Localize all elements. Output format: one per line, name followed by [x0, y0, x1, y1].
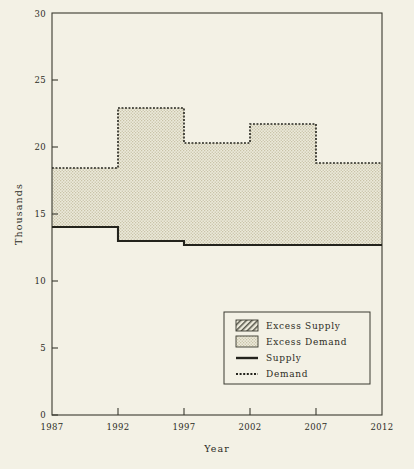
- legend-swatch-excess-demand: [236, 336, 258, 347]
- x-tick-label-1997: 1997: [172, 422, 195, 432]
- x-tick-label-1992: 1992: [106, 422, 129, 432]
- legend-label-excess-demand: Excess Demand: [266, 337, 347, 347]
- y-tick-label-30: 30: [34, 9, 46, 19]
- chart-container: 0 5 10 15 20 25 30 1987 1992 1997 2002 2…: [0, 0, 414, 469]
- y-tick-label-25: 25: [34, 75, 46, 85]
- chart-legend: Excess Supply Excess Demand Supply Deman…: [224, 312, 370, 384]
- step-area-chart: 0 5 10 15 20 25 30 1987 1992 1997 2002 2…: [0, 0, 414, 469]
- x-tick-label-1987: 1987: [40, 422, 63, 432]
- x-axis-title: Year: [203, 443, 230, 454]
- x-tick-label-2007: 2007: [304, 422, 327, 432]
- legend-label-supply: Supply: [266, 353, 302, 363]
- legend-label-demand: Demand: [266, 369, 308, 379]
- legend-swatch-excess-supply: [236, 320, 258, 331]
- x-tick-label-2002: 2002: [238, 422, 261, 432]
- y-tick-label-20: 20: [34, 142, 46, 152]
- x-tick-label-2012: 2012: [370, 422, 393, 432]
- y-tick-label-0: 0: [40, 410, 46, 420]
- y-tick-label-5: 5: [40, 343, 46, 353]
- legend-label-excess-supply: Excess Supply: [266, 321, 341, 331]
- y-tick-label-15: 15: [34, 209, 46, 219]
- y-tick-label-10: 10: [34, 276, 46, 286]
- y-axis-title: Thousands: [13, 183, 24, 245]
